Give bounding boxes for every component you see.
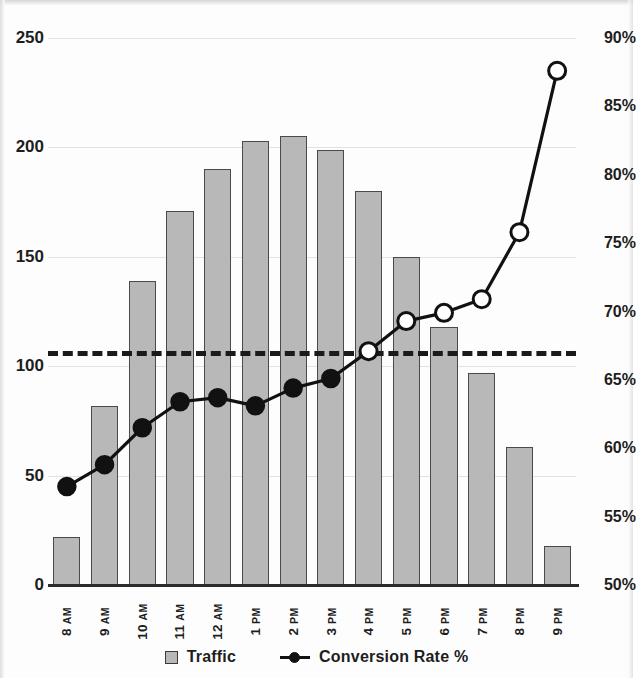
- plot-area: [48, 38, 576, 585]
- y-axis-right-tick: 55%: [584, 508, 636, 526]
- y-axis-left-tick: 150: [2, 247, 44, 267]
- x-axis-tick-label: 9 PM: [550, 607, 565, 635]
- x-axis-labels: 8 AM9 AM10 AM11 AM12 AM1 PM2 PM3 PM4 PM5…: [48, 590, 576, 652]
- data-point-filled: [58, 478, 75, 495]
- x-axis-tick-label: 11 AM: [172, 604, 187, 640]
- x-axis-tick: 9 PM: [526, 590, 588, 652]
- x-axis-tick-label: 2 PM: [286, 607, 301, 635]
- data-point-hollow: [511, 224, 528, 241]
- legend-label-traffic: Traffic: [187, 648, 236, 666]
- data-point-hollow: [473, 291, 490, 308]
- data-point-hollow: [360, 343, 377, 360]
- x-axis-tick-label: 6 PM: [436, 607, 451, 635]
- scan-edge-top: [0, 0, 633, 6]
- data-point-filled: [209, 389, 226, 406]
- data-point-filled: [172, 393, 189, 410]
- x-axis-tick-label: 8 PM: [512, 607, 527, 635]
- data-point-hollow: [436, 304, 453, 321]
- y-axis-left-tick: 50: [2, 466, 44, 486]
- line-dot-swatch-icon: [280, 651, 310, 664]
- y-axis-left-tick: 250: [2, 28, 44, 48]
- x-axis-tick-label: 12 AM: [210, 603, 225, 640]
- data-point-filled: [247, 397, 264, 414]
- legend-label-conversion-rate: Conversion Rate %: [319, 648, 468, 666]
- y-axis-right-tick: 65%: [584, 371, 636, 389]
- y-axis-right-tick: 70%: [584, 303, 636, 321]
- legend-item-traffic[interactable]: Traffic: [165, 648, 236, 666]
- line-series-conversion-rate: [48, 38, 576, 585]
- x-axis-tick-label: 5 PM: [399, 607, 414, 635]
- x-axis-tick-label: 8 AM: [59, 607, 74, 636]
- x-axis-baseline: [48, 584, 579, 587]
- x-axis-tick-label: 7 PM: [474, 607, 489, 635]
- y-axis-right-tick: 60%: [584, 439, 636, 457]
- x-axis-tick-label: 3 PM: [323, 607, 338, 635]
- data-point-filled: [134, 419, 151, 436]
- y-axis-right-tick: 50%: [584, 576, 636, 594]
- y-axis-left-tick: 200: [2, 137, 44, 157]
- y-axis-left-tick: 100: [2, 356, 44, 376]
- y-axis-right-tick: 85%: [584, 97, 636, 115]
- data-point-filled: [322, 370, 339, 387]
- bar-swatch-icon: [165, 651, 178, 664]
- x-axis-tick-label: 9 AM: [97, 607, 112, 636]
- data-point-hollow: [398, 313, 415, 330]
- y-axis-right-tick: 80%: [584, 166, 636, 184]
- data-point-hollow: [549, 62, 566, 79]
- x-axis-tick-label: 10 AM: [135, 603, 150, 640]
- y-axis-right-tick: 90%: [584, 29, 636, 47]
- data-point-filled: [285, 380, 302, 397]
- legend-item-conversion-rate[interactable]: Conversion Rate %: [280, 648, 468, 666]
- data-point-filled: [96, 456, 113, 473]
- y-axis-right-tick: 75%: [584, 234, 636, 252]
- chart-legend: Traffic Conversion Rate %: [0, 648, 633, 666]
- x-axis-tick-label: 1 PM: [248, 607, 263, 635]
- x-axis-tick-label: 4 PM: [361, 607, 376, 635]
